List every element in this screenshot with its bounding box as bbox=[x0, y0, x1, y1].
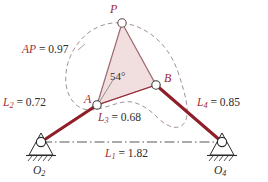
label-l3-equals: = bbox=[109, 111, 121, 123]
ap-leader-tick bbox=[78, 44, 85, 50]
ground-label-o2-subscript: 2 bbox=[41, 169, 45, 178]
label-l1-equals: = bbox=[116, 147, 128, 159]
label-l1: L1 = 1.82 bbox=[105, 148, 148, 161]
label-l2-value: 0.72 bbox=[26, 96, 46, 108]
label-l4: L4 = 0.85 bbox=[197, 97, 240, 110]
label-l1-value: 1.82 bbox=[128, 147, 148, 159]
o2-pin-joint bbox=[36, 137, 45, 146]
joint-p bbox=[118, 19, 126, 27]
ground-label-o4: O4 bbox=[214, 164, 226, 178]
label-ap-value: 0.97 bbox=[48, 43, 68, 55]
label-ap: AP = 0.97 bbox=[22, 44, 68, 56]
coupler-triangle-apb bbox=[97, 23, 156, 105]
joint-b bbox=[152, 81, 160, 89]
ground-support-o4 bbox=[207, 133, 237, 161]
link-l2-line bbox=[41, 105, 97, 142]
label-l4-equals: = bbox=[208, 96, 220, 108]
joint-a bbox=[93, 101, 101, 109]
figure-canvas: P A B AP = 0.97 L2 = 0.72 L3 = 0.68 L4 =… bbox=[0, 0, 268, 182]
angle-label-apb: 54° bbox=[110, 70, 125, 82]
label-l2-equals: = bbox=[14, 96, 26, 108]
o4-hatching bbox=[209, 156, 233, 161]
point-label-p: P bbox=[110, 2, 117, 17]
link-l4-line bbox=[156, 85, 222, 142]
o4-pin-joint bbox=[217, 137, 226, 146]
point-label-b: B bbox=[164, 71, 171, 86]
label-l2: L2 = 0.72 bbox=[3, 97, 46, 110]
label-l3: L3 = 0.68 bbox=[98, 112, 141, 125]
label-ap-symbol: AP bbox=[22, 43, 36, 55]
ground-label-o4-subscript: 4 bbox=[222, 169, 226, 178]
label-l4-value: 0.85 bbox=[220, 96, 240, 108]
label-l3-value: 0.68 bbox=[121, 111, 141, 123]
point-label-a: A bbox=[84, 92, 91, 107]
o2-hatching bbox=[28, 156, 52, 161]
ground-support-o2 bbox=[26, 133, 56, 161]
ground-label-o2: O2 bbox=[33, 164, 45, 178]
label-ap-equals: = bbox=[36, 43, 48, 55]
